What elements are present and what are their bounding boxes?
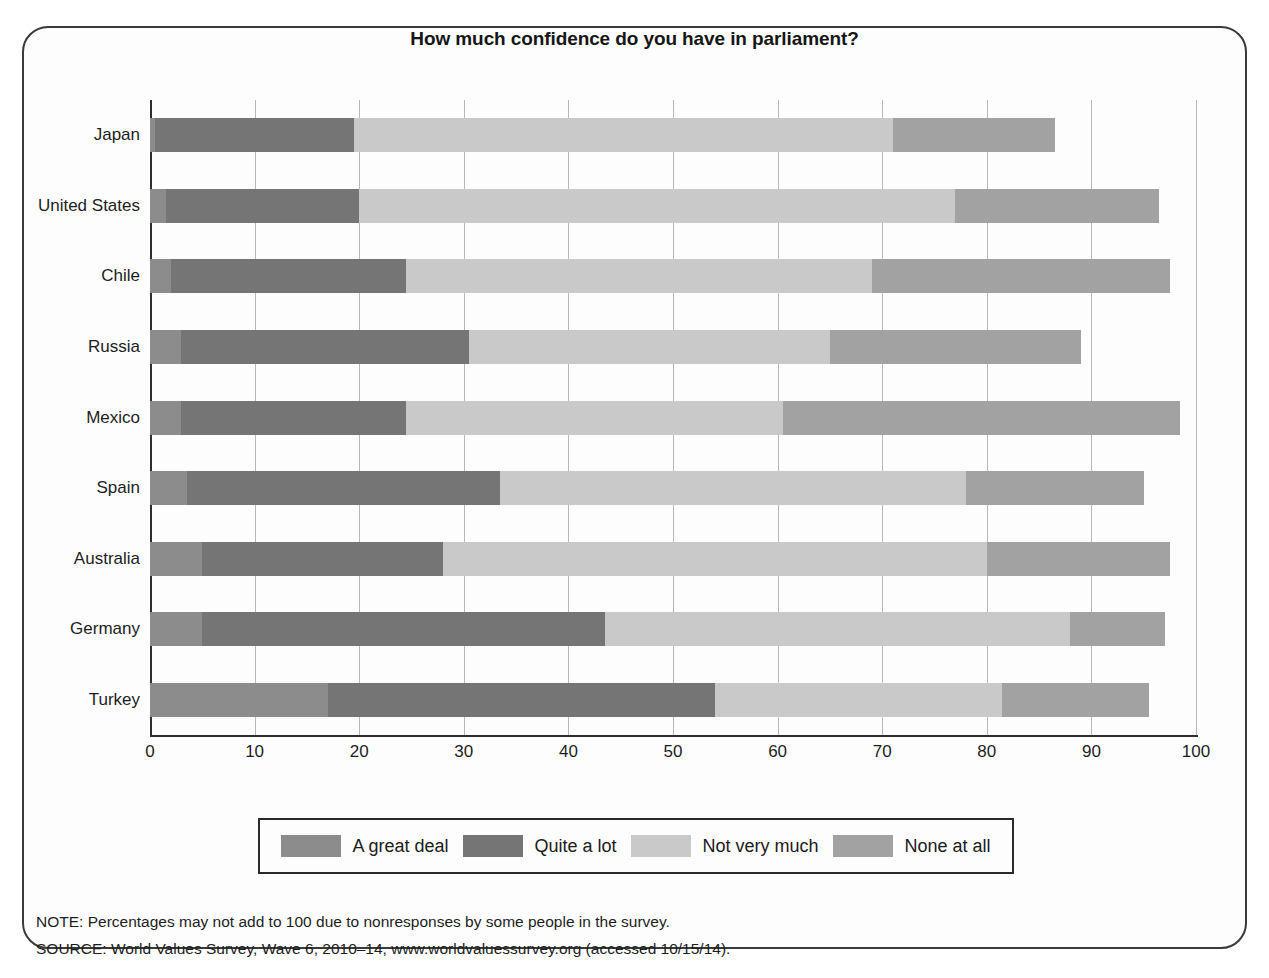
bar-segment[interactable] [987, 542, 1170, 576]
bar-segment[interactable] [328, 683, 715, 717]
bar-segment[interactable] [171, 259, 406, 293]
bar-segment[interactable] [955, 189, 1159, 223]
bar-segment[interactable] [443, 542, 987, 576]
x-tick-label-20: 20 [350, 742, 369, 762]
bar-row[interactable] [150, 612, 1196, 646]
bar-row[interactable] [150, 330, 1196, 364]
x-tick-label-80: 80 [977, 742, 996, 762]
bar-segment[interactable] [155, 118, 354, 152]
y-axis-label-united-states: United States [0, 196, 140, 216]
x-tick-label-70: 70 [873, 742, 892, 762]
bar-segment[interactable] [359, 189, 955, 223]
bar-segment[interactable] [150, 401, 181, 435]
bar-segment[interactable] [354, 118, 893, 152]
bar-segment[interactable] [406, 401, 783, 435]
bar-segment[interactable] [150, 259, 171, 293]
x-tick-label-30: 30 [454, 742, 473, 762]
x-axis-line [150, 735, 1198, 737]
bar-row[interactable] [150, 189, 1196, 223]
bar-segment[interactable] [830, 330, 1081, 364]
note-line: NOTE: Percentages may not add to 100 due… [36, 908, 1216, 935]
legend-swatch-icon [281, 835, 341, 857]
bar-row[interactable] [150, 683, 1196, 717]
bar-segment[interactable] [1002, 683, 1148, 717]
y-axis-label-turkey: Turkey [0, 690, 140, 710]
y-axis-label-australia: Australia [0, 549, 140, 569]
y-axis-label-russia: Russia [0, 337, 140, 357]
figure-footnotes: NOTE: Percentages may not add to 100 due… [36, 908, 1216, 962]
bar-segment[interactable] [150, 612, 202, 646]
bar-segment[interactable] [181, 401, 406, 435]
y-axis-label-spain: Spain [0, 478, 140, 498]
x-tick-label-10: 10 [245, 742, 264, 762]
bar-segment[interactable] [150, 683, 328, 717]
x-tick-label-60: 60 [768, 742, 787, 762]
bar-segment[interactable] [181, 330, 469, 364]
x-axis-tick-labels: 0102030405060708090100 [150, 742, 1196, 768]
x-tick-label-90: 90 [1082, 742, 1101, 762]
y-axis-label-chile: Chile [0, 266, 140, 286]
legend-label: A great deal [352, 836, 448, 857]
bar-segment[interactable] [150, 471, 187, 505]
y-axis-label-mexico: Mexico [0, 408, 140, 428]
bar-row[interactable] [150, 401, 1196, 435]
chart-legend: A great dealQuite a lotNot very muchNone… [258, 818, 1014, 874]
x-tick-label-0: 0 [145, 742, 154, 762]
legend-label: Not very much [702, 836, 818, 857]
x-tick-label-40: 40 [559, 742, 578, 762]
x-tick-label-50: 50 [664, 742, 683, 762]
bar-row[interactable] [150, 471, 1196, 505]
legend-swatch-icon [833, 835, 893, 857]
bar-segment[interactable] [150, 189, 166, 223]
legend-item[interactable]: Not very much [631, 835, 818, 857]
y-axis-label-japan: Japan [0, 125, 140, 145]
source-line: SOURCE: World Values Survey, Wave 6, 201… [36, 935, 1216, 962]
x-tick-label-100: 100 [1182, 742, 1210, 762]
bar-segment[interactable] [1070, 612, 1164, 646]
bar-segment[interactable] [500, 471, 965, 505]
bar-row[interactable] [150, 259, 1196, 293]
plot-area [150, 100, 1196, 735]
bar-segment[interactable] [469, 330, 830, 364]
bar-segment[interactable] [150, 542, 202, 576]
legend-item[interactable]: A great deal [281, 835, 448, 857]
bar-segment[interactable] [166, 189, 360, 223]
legend-label: None at all [904, 836, 990, 857]
bar-segment[interactable] [406, 259, 871, 293]
y-axis-label-germany: Germany [0, 619, 140, 639]
bar-row[interactable] [150, 542, 1196, 576]
legend-swatch-icon [463, 835, 523, 857]
bar-segment[interactable] [715, 683, 1003, 717]
bar-segment[interactable] [872, 259, 1170, 293]
bar-segment[interactable] [187, 471, 501, 505]
bar-segment[interactable] [605, 612, 1070, 646]
legend-label: Quite a lot [534, 836, 616, 857]
chart-title: How much confidence do you have in parli… [0, 28, 1269, 50]
legend-item[interactable]: None at all [833, 835, 990, 857]
legend-swatch-icon [631, 835, 691, 857]
legend-item[interactable]: Quite a lot [463, 835, 616, 857]
bar-row[interactable] [150, 118, 1196, 152]
bar-segment[interactable] [966, 471, 1144, 505]
y-axis-category-labels: JapanUnited StatesChileRussiaMexicoSpain… [0, 100, 140, 735]
bar-segment[interactable] [150, 330, 181, 364]
gridline-100 [1196, 100, 1197, 735]
bar-segment[interactable] [783, 401, 1180, 435]
bar-segment[interactable] [893, 118, 1055, 152]
bar-segment[interactable] [202, 612, 605, 646]
bar-segment[interactable] [202, 542, 443, 576]
